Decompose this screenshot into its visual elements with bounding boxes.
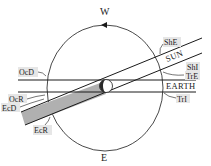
planet bbox=[100, 80, 113, 93]
label-ocd: OcD bbox=[18, 67, 46, 77]
svg-text:ShI: ShI bbox=[187, 63, 198, 72]
svg-text:TrE: TrE bbox=[186, 72, 198, 81]
earth-label: EARTH bbox=[166, 81, 195, 91]
svg-text:EcR: EcR bbox=[34, 126, 48, 135]
svg-text:EcD: EcD bbox=[2, 104, 16, 113]
svg-text:OcR: OcR bbox=[9, 95, 24, 104]
shadow-band bbox=[21, 82, 106, 125]
orbit-geometry-diagram: W E SUN EARTH ShE ShI TrE TrI OcD OcR Ec… bbox=[0, 0, 211, 166]
direction-west-label: W bbox=[100, 6, 110, 17]
label-tri: TrI bbox=[164, 93, 190, 104]
orbit-direction-arrow-icon bbox=[101, 22, 107, 28]
svg-text:ShE: ShE bbox=[164, 38, 177, 47]
label-shi: ShI bbox=[186, 62, 200, 72]
svg-text:OcD: OcD bbox=[19, 68, 34, 77]
label-ocr: OcR bbox=[8, 94, 45, 104]
direction-east-label: E bbox=[101, 152, 107, 163]
svg-text:TrI: TrI bbox=[177, 95, 187, 104]
